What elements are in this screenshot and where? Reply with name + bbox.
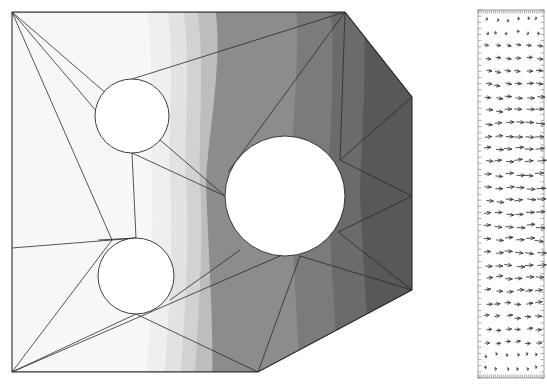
hole-lower-left-outline xyxy=(98,238,174,314)
vector-field-svg xyxy=(440,0,547,388)
vector-field-frame xyxy=(478,10,544,378)
vector-field-panel xyxy=(440,0,547,388)
contour-plot-panel xyxy=(0,0,440,388)
hole-center-right-outline xyxy=(225,136,345,256)
contour-band-9 xyxy=(360,0,440,388)
contour-plot-svg xyxy=(0,0,440,388)
figure-container xyxy=(0,0,547,388)
hole-upper-left-outline xyxy=(95,79,169,153)
